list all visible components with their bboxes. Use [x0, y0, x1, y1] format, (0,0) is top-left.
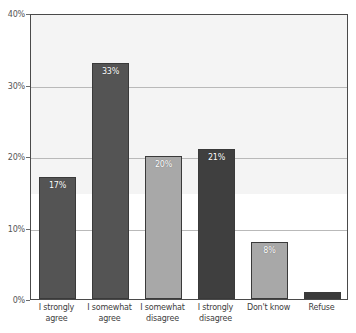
y-axis-tick-label: 20% [8, 153, 25, 162]
bar[interactable]: 21% [198, 149, 235, 299]
x-axis-label-line: disagree [189, 313, 242, 324]
bar-value-label: 8% [252, 246, 287, 255]
y-axis-tick-label: 40% [8, 10, 25, 19]
bar-value-label: 17% [40, 181, 75, 190]
y-axis-tick-label: 0% [13, 296, 25, 305]
x-axis-label-line: agree [83, 313, 136, 324]
x-axis-label-line: I strongly [189, 302, 242, 313]
bar[interactable]: 17% [39, 177, 76, 299]
x-axis-tick-label: I somewhatagree [83, 302, 136, 324]
bar[interactable]: 8% [251, 242, 288, 299]
x-axis-tick-label: Don't know [242, 302, 295, 313]
x-axis-label-line: Refuse [295, 302, 348, 313]
bars-layer: 17%33%20%21%8% [31, 15, 347, 299]
bar[interactable]: 33% [92, 63, 129, 299]
x-axis-label-line: disagree [136, 313, 189, 324]
bar[interactable]: 20% [145, 156, 182, 299]
x-axis-tick-label: Refuse [295, 302, 348, 313]
bar[interactable] [304, 292, 341, 299]
bar-value-label: 33% [93, 67, 128, 76]
x-axis-label-line: I strongly [30, 302, 83, 313]
bar-value-label: 20% [146, 160, 181, 169]
x-axis: I stronglyagreeI somewhatagreeI somewhat… [30, 302, 348, 333]
x-axis-tick-label: I stronglyagree [30, 302, 83, 324]
bar-chart: 0%10%20%30%40% 17%33%20%21%8% I strongly… [0, 0, 356, 333]
y-axis-tick-label: 10% [8, 224, 25, 233]
x-axis-label-line: I somewhat [83, 302, 136, 313]
bar-value-label: 21% [199, 153, 234, 162]
x-axis-label-line: Don't know [242, 302, 295, 313]
y-axis-tick-label: 30% [8, 81, 25, 90]
plot-area: 17%33%20%21%8% [30, 14, 348, 300]
x-axis-label-line: agree [30, 313, 83, 324]
x-axis-tick-label: I stronglydisagree [189, 302, 242, 324]
y-axis-tick-mark [26, 300, 30, 301]
y-axis: 0%10%20%30%40% [0, 0, 30, 333]
x-axis-tick-label: I somewhatdisagree [136, 302, 189, 324]
x-axis-label-line: I somewhat [136, 302, 189, 313]
